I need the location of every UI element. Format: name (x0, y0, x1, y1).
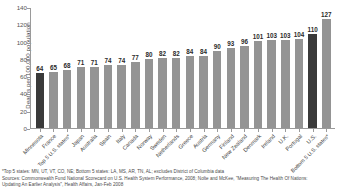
x-axis-tick-mark (156, 129, 170, 132)
plot-area: 140120100806040200 646568717174747780828… (30, 8, 335, 129)
bar: 103 (281, 40, 289, 128)
x-axis-tick-mark (183, 129, 197, 132)
mortality-bar-chart: Deaths per 100,000 population 1401201008… (0, 0, 341, 194)
bar: 82 (158, 58, 166, 128)
y-axis-tick-label: 100 (17, 39, 27, 46)
bar-value-label: 127 (321, 11, 332, 18)
x-axis-tick-mark (319, 129, 333, 132)
bar-value-label: 82 (173, 50, 180, 57)
x-axis-label-slot: Germany (210, 133, 224, 171)
x-axis-label-slot: Bottom 5 U.S. states* (319, 133, 333, 171)
x-axis-tick-mark (292, 129, 306, 132)
bar-slot: 90 (210, 8, 224, 128)
x-axis-label-slot: Greece (183, 133, 197, 171)
bar-slot: 64 (33, 8, 47, 128)
x-axis-label-slot: Top 5 U.S. states* (60, 133, 74, 171)
y-axis-tick-label: 20 (20, 108, 27, 115)
y-axis-tick-mark (27, 43, 30, 44)
x-axis-tick-mark (88, 129, 102, 132)
x-axis-tick-mark (115, 129, 129, 132)
bar-value-label: 110 (308, 26, 318, 33)
bar: 110 (308, 34, 316, 128)
bar: 101 (254, 41, 262, 128)
bar-slot: 71 (74, 8, 88, 128)
footnote-sources-cont: Updating An Earlier Analysis", Health Af… (2, 182, 340, 189)
x-axis-label-slot: Spain (101, 133, 115, 171)
bar-slot: 82 (169, 8, 183, 128)
y-axis-tick-mark (27, 77, 30, 78)
bar: 90 (213, 51, 221, 128)
bar-value-label: 101 (253, 33, 264, 40)
x-axis-label-slot: Denmark (251, 133, 265, 171)
y-axis-tick-mark (27, 60, 30, 61)
bar: 71 (77, 67, 85, 128)
bar-value-label: 90 (214, 43, 221, 50)
x-axis-category-labels: MinnesotaFranceTop 5 U.S. states*JapanAu… (31, 133, 335, 171)
y-axis-tick-label: 40 (20, 90, 27, 97)
bar-value-label: 71 (91, 59, 98, 66)
bar-slot: 84 (183, 8, 197, 128)
bar-slot: 103 (265, 8, 279, 128)
x-axis-tick-mark (101, 129, 115, 132)
y-axis-tick-label: 140 (17, 4, 27, 11)
bar: 77 (131, 62, 139, 128)
x-axis-tick-mark (142, 129, 156, 132)
bar-value-label: 96 (241, 38, 248, 45)
bar: 68 (63, 70, 71, 128)
bar-value-label: 64 (36, 65, 43, 72)
x-axis-tick-mark (238, 129, 252, 132)
bar-slot: 104 (292, 8, 306, 128)
y-axis-tick-label: 60 (20, 73, 27, 80)
bar: 93 (227, 48, 235, 128)
bar-value-label: 103 (280, 32, 291, 39)
bar-slot: 84 (197, 8, 211, 128)
x-axis-tick-mark (169, 129, 183, 132)
bar-slot: 74 (101, 8, 115, 128)
x-axis-label-slot: Norway (142, 133, 156, 171)
bar-slot: 65 (47, 8, 61, 128)
y-axis-tick-mark (27, 8, 30, 9)
y-axis-tick-mark (27, 25, 30, 26)
bar-value-label: 74 (118, 57, 125, 64)
y-axis-tick-label: 120 (17, 21, 27, 28)
x-axis-tick-mark (210, 129, 224, 132)
bar-slot: 82 (156, 8, 170, 128)
bar: 64 (36, 73, 44, 128)
footnote-sources: Sources: Commonwealth Fund National Scor… (2, 176, 340, 183)
bar-slot: 127 (319, 8, 333, 128)
bar: 84 (199, 56, 207, 128)
bar-slot: 103 (279, 8, 293, 128)
x-axis-label-slot: Ireland (265, 133, 279, 171)
bar: 127 (322, 19, 330, 128)
bar-value-label: 104 (294, 31, 305, 38)
x-axis-ticks (31, 129, 335, 132)
x-axis-label-slot: Italy (115, 133, 129, 171)
bar-slot: 101 (251, 8, 265, 128)
x-axis-label-slot: Netherlands (169, 133, 183, 171)
bar: 74 (104, 65, 112, 128)
bar-value-label: 103 (266, 32, 277, 39)
x-axis-label-slot: Australia (88, 133, 102, 171)
x-axis-tick-mark (251, 129, 265, 132)
footnote-states: *Top 5 states: MN, UT, VT, CO, NE; Botto… (2, 169, 340, 176)
bar-slot: 68 (60, 8, 74, 128)
bar-slot: 93 (224, 8, 238, 128)
bar-value-label: 82 (159, 50, 166, 57)
x-axis-tick-mark (47, 129, 61, 132)
x-axis-label-slot: Canada (128, 133, 142, 171)
bar: 65 (49, 72, 57, 128)
bar-value-label: 71 (77, 59, 84, 66)
y-axis-tick-mark (27, 129, 30, 130)
x-axis-tick-mark (74, 129, 88, 132)
bar-slot: 74 (115, 8, 129, 128)
x-axis-tick-mark (33, 129, 47, 132)
bar-value-label: 74 (105, 57, 112, 64)
bar-value-label: 77 (132, 54, 139, 61)
bar-slot: 77 (128, 8, 142, 128)
bar-value-label: 65 (50, 64, 57, 71)
x-axis-tick-mark (265, 129, 279, 132)
y-axis-tick-mark (27, 112, 30, 113)
bar-value-label: 84 (200, 48, 207, 55)
footnotes: *Top 5 states: MN, UT, VT, CO, NE; Botto… (2, 169, 340, 189)
bar-slot: 110 (306, 8, 320, 128)
